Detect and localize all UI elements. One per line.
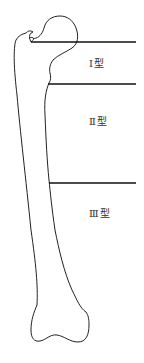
femur-outline [14, 16, 89, 342]
zone-label-type-1: Ⅰ型 [89, 55, 105, 70]
femur-diagram [0, 0, 144, 363]
zone-label-type-2: Ⅱ型 [89, 113, 108, 128]
zone-label-type-3: Ⅲ型 [89, 205, 111, 220]
